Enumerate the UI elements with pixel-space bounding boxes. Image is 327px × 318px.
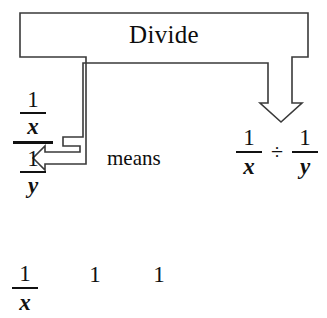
division-sign: ÷ <box>271 141 283 163</box>
right-right-num: 1 <box>299 126 311 149</box>
denominator-lower-den: y <box>28 174 38 197</box>
right-expression-right-fraction: 1 y <box>292 126 318 178</box>
numerator-upper-num: 1 <box>27 88 39 111</box>
means-text: means <box>107 146 161 171</box>
right-right-fraction-bar <box>292 151 318 153</box>
bottom-cutoff-row: 1 x 1 1 <box>12 262 172 314</box>
right-left-den: x <box>243 155 255 178</box>
diagram-canvas: Divide 1 x 1 y means 1 x ÷ 1 y <box>0 0 327 318</box>
main-fraction-bar <box>13 141 53 144</box>
right-left-num: 1 <box>243 126 255 149</box>
bottom-row-num: 1 <box>19 262 31 285</box>
bottom-row-fraction-bar <box>12 287 38 289</box>
callout-label-text: Divide <box>129 21 199 49</box>
complex-fraction-numerator: 1 x <box>20 88 46 138</box>
bottom-row-den: x <box>19 291 31 314</box>
right-right-den: y <box>300 155 310 178</box>
right-expression-left-fraction: 1 x <box>236 126 262 178</box>
bottom-row-fraction: 1 x <box>12 262 38 314</box>
complex-fraction-denominator: 1 y <box>20 147 46 197</box>
denominator-lower-num: 1 <box>27 147 39 170</box>
bottom-row-loose-numerator-1: 1 <box>82 262 108 288</box>
right-expression: 1 x ÷ 1 y <box>236 126 318 178</box>
complex-fraction: 1 x 1 y <box>12 88 54 197</box>
callout-label: Divide <box>20 13 308 57</box>
right-left-fraction-bar <box>236 151 262 153</box>
numerator-upper-den: x <box>27 115 39 138</box>
bottom-row-loose-numerator-2: 1 <box>146 262 172 288</box>
